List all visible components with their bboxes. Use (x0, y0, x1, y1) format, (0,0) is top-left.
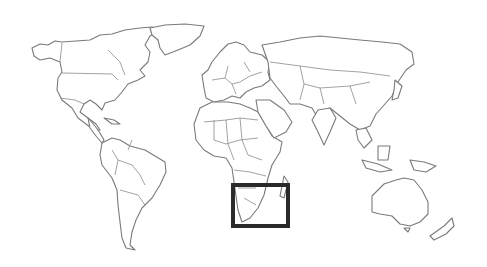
new-zealand (430, 218, 454, 240)
indonesia (362, 160, 392, 172)
borneo (378, 146, 390, 160)
north-america (32, 27, 160, 130)
caribbean-islands (104, 118, 120, 124)
greenland (150, 24, 204, 55)
australia (372, 178, 428, 226)
southeast-asia (356, 128, 372, 148)
new-guinea (410, 160, 436, 172)
central-america (88, 118, 104, 143)
india (312, 108, 336, 145)
tasmania (404, 228, 410, 232)
world-map (0, 0, 487, 267)
